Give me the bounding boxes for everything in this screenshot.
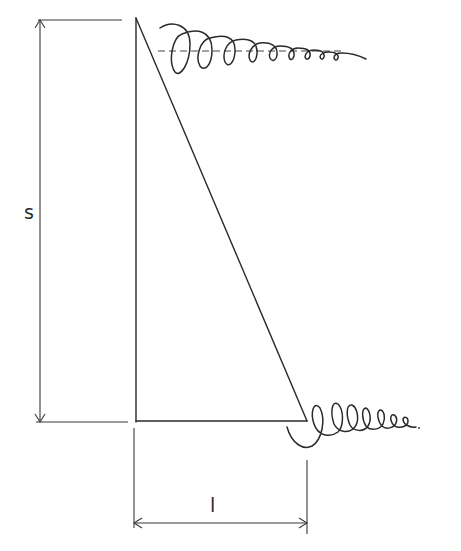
- dimension-l: [134, 428, 307, 534]
- dimension-s: [35, 20, 128, 422]
- bottom-spiral-curl: [287, 403, 420, 447]
- top-spiral-curl: [158, 24, 366, 73]
- diagram-canvas: [0, 0, 461, 551]
- spiral-coil: [287, 403, 416, 447]
- spiral-coil: [160, 24, 366, 73]
- label-l: l: [210, 494, 215, 516]
- triangle-hypotenuse: [136, 18, 307, 421]
- label-s: s: [24, 201, 34, 223]
- right-triangle: [136, 18, 307, 422]
- end-dot: [418, 427, 420, 429]
